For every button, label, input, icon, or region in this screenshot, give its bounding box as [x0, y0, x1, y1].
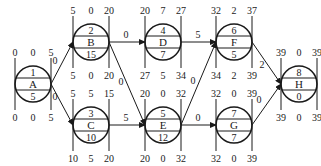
- network-diagram: 0000550020 1A50050052B15502050203C105515…: [0, 0, 321, 166]
- node-B: 2B1550205020: [71, 5, 115, 81]
- node-ls: 34: [211, 70, 221, 81]
- node-name: H: [295, 78, 303, 90]
- node-lf: 39: [247, 70, 257, 81]
- node-es: 32: [211, 5, 221, 16]
- node-ef: 5: [49, 47, 54, 58]
- node-ef: 27: [176, 5, 186, 16]
- node-top-value: 5: [161, 108, 166, 119]
- edge-C-E: 5: [109, 112, 145, 125]
- node-bottom-value: 12: [158, 132, 168, 143]
- node-lf: 32: [176, 153, 186, 164]
- node-lf: 20: [104, 70, 114, 81]
- node-tf: 0: [89, 5, 94, 16]
- node-es: 0: [13, 47, 18, 58]
- node-name: B: [87, 36, 94, 48]
- node-name: C: [87, 119, 94, 131]
- node-top-value: 6: [232, 25, 237, 36]
- node-bottom-value: 10: [86, 132, 96, 143]
- node-bottom-value: 7: [232, 132, 237, 143]
- node-top-value: 2: [89, 25, 94, 36]
- node-tf: 0: [31, 47, 36, 58]
- edge-label: 2: [260, 59, 265, 70]
- node-top-value: 4: [161, 25, 166, 36]
- node-ls: 27: [140, 70, 150, 81]
- node-es: 5: [71, 5, 76, 16]
- node-ff: 0: [31, 112, 36, 123]
- node-name: G: [230, 119, 238, 131]
- node-ls: 32: [211, 153, 221, 164]
- node-bottom-value: 15: [86, 49, 96, 60]
- edge-label: 0: [196, 112, 201, 123]
- node-lf: 39: [312, 112, 321, 123]
- edge-label: 0: [53, 91, 58, 102]
- node-name: F: [231, 36, 237, 48]
- node-tf: 0: [161, 88, 166, 99]
- node-es: 32: [211, 88, 221, 99]
- node-ls: 20: [140, 153, 150, 164]
- node-ef: 20: [104, 5, 114, 16]
- node-ef: 39: [247, 88, 257, 99]
- node-ls: 10: [68, 153, 78, 164]
- node-ff: 0: [232, 153, 237, 164]
- node-ff: 5: [89, 153, 94, 164]
- node-ls: 5: [71, 70, 76, 81]
- edge-D-F: 5: [181, 29, 216, 42]
- node-ef: 39: [312, 47, 321, 58]
- edge-label: 0: [191, 75, 196, 86]
- node-ef: 15: [104, 88, 114, 99]
- node-C: 3C10551510520: [68, 88, 114, 164]
- node-lf: 20: [104, 153, 114, 164]
- node-top-value: 8: [297, 67, 302, 78]
- edge-label: 5: [196, 29, 201, 40]
- node-bottom-value: 5: [232, 49, 237, 60]
- node-A: 1A5005005: [13, 47, 54, 123]
- node-ff: 2: [232, 70, 237, 81]
- node-D: 4D72072727534: [140, 5, 186, 81]
- edge-E-G: 0: [181, 112, 216, 125]
- node-es: 20: [140, 5, 150, 16]
- node-tf: 2: [232, 5, 237, 16]
- node-ef: 32: [176, 88, 186, 99]
- node-tf: 0: [232, 88, 237, 99]
- node-ls: 39: [276, 112, 286, 123]
- node-name: E: [160, 119, 167, 131]
- node-H: 8H03903939039: [276, 47, 321, 123]
- node-top-value: 1: [31, 67, 36, 78]
- node-ff: 0: [297, 112, 302, 123]
- node-es: 20: [140, 88, 150, 99]
- node-E: 5E122003220032: [140, 88, 186, 164]
- node-name: D: [159, 36, 167, 48]
- node-ff: 0: [89, 70, 94, 81]
- nodes-layer: 1A50050052B15502050203C105515105204D7207…: [13, 5, 321, 164]
- node-ff: 0: [161, 153, 166, 164]
- node-es: 39: [276, 47, 286, 58]
- node-tf: 7: [161, 5, 166, 16]
- node-tf: 5: [89, 88, 94, 99]
- edge-B-D: 0: [109, 29, 145, 42]
- node-lf: 39: [247, 153, 257, 164]
- node-lf: 5: [49, 112, 54, 123]
- node-top-value: 7: [232, 108, 237, 119]
- edge-label: 0: [119, 76, 124, 87]
- edge-label: 5: [124, 112, 129, 123]
- node-top-value: 3: [89, 108, 94, 119]
- node-F: 6F53223734239: [211, 5, 257, 81]
- node-ff: 5: [161, 70, 166, 81]
- node-ef: 37: [247, 5, 257, 16]
- node-bottom-value: 0: [297, 91, 302, 102]
- node-ls: 0: [13, 112, 18, 123]
- node-es: 5: [71, 88, 76, 99]
- node-name: A: [29, 78, 37, 90]
- node-bottom-value: 5: [31, 91, 36, 102]
- node-lf: 34: [176, 70, 186, 81]
- node-bottom-value: 7: [161, 49, 166, 60]
- edge-label: 0: [257, 94, 262, 105]
- node-G: 7G73203932039: [211, 88, 257, 164]
- edge-label: 0: [124, 29, 129, 40]
- node-tf: 0: [297, 47, 302, 58]
